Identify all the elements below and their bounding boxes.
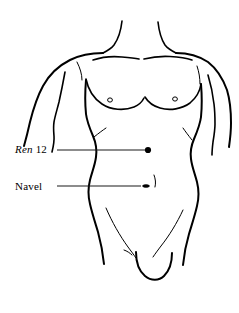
- left-arm-inner: [52, 72, 65, 152]
- right-shoulder-outer: [176, 53, 231, 147]
- neck-right-line: [158, 22, 176, 53]
- torso-drawing: [0, 0, 239, 313]
- clavicle-left: [93, 57, 139, 60]
- left-deltoid-crease: [77, 62, 82, 80]
- label-navel: Navel: [15, 181, 42, 192]
- right-costal-margin: [183, 128, 192, 140]
- ren12-point-marker: [145, 147, 151, 153]
- navel-mark-icon: [143, 185, 150, 188]
- ren12-number: 12: [36, 143, 47, 155]
- right-nipple-icon: [173, 97, 178, 101]
- left-nipple-icon: [108, 98, 113, 102]
- right-inguinal-line: [153, 210, 183, 257]
- right-pectoral-curve: [145, 84, 201, 109]
- navel-fold-line: [154, 175, 156, 187]
- label-ren12: Ren 12: [15, 144, 47, 155]
- right-torso-flank: [183, 84, 202, 265]
- left-torso-flank: [85, 80, 104, 264]
- left-pectoral-curve: [86, 79, 144, 109]
- left-costal-margin: [94, 128, 106, 137]
- right-deltoid-crease: [197, 66, 200, 84]
- ren12-channel-name: Ren: [15, 143, 33, 155]
- left-inguinal-line: [106, 208, 136, 258]
- clavicle-right: [144, 56, 192, 60]
- acupoint-figure: Ren 12 Navel: [0, 0, 239, 313]
- neck-left-line: [103, 21, 122, 53]
- right-arm-inner: [208, 75, 215, 155]
